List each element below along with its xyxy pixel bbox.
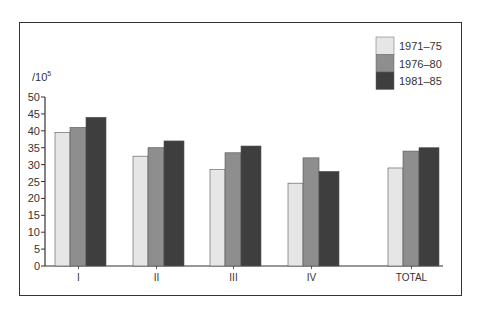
bar-i-1 [55,132,70,266]
y-tick-label: 5 [34,243,40,255]
legend-label-1: 1971–75 [399,40,442,52]
legend-swatch-3 [376,72,394,90]
bar-iv-3 [319,171,339,266]
bar-ii-3 [164,141,184,266]
bar-ii-2 [148,148,164,266]
legend-label-3: 1981–85 [399,75,442,87]
legend-label-2: 1976–80 [399,58,442,70]
bar-i-2 [70,127,86,266]
y-tick-label: 10 [28,226,40,238]
legend-swatch-1 [376,37,394,55]
legend-swatch-2 [376,55,394,73]
bar-iii-3 [241,146,261,266]
category-label: IV [307,272,317,283]
y-tick-label: 30 [28,159,40,171]
bar-total-2 [403,151,419,266]
y-tick-label: 50 [28,91,40,103]
bar-iv-2 [303,158,319,266]
category-label: III [229,272,237,283]
category-label: I [77,272,80,283]
bar-chart: 05101520253035404550IIIIIIIVTOTAL1971–75… [0,0,480,316]
bar-total-3 [419,148,439,266]
bar-i-3 [86,117,106,266]
bar-iii-1 [210,170,225,266]
y-tick-label: 40 [28,125,40,137]
category-label: II [154,272,160,283]
bar-iii-2 [225,153,241,266]
y-tick-label: 35 [28,142,40,154]
y-tick-label: 45 [28,108,40,120]
y-tick-label: 25 [28,176,40,188]
bar-total-1 [388,168,403,266]
y-tick-label: 15 [28,209,40,221]
category-label: TOTAL [396,272,428,283]
y-tick-label: 20 [28,192,40,204]
y-tick-label: 0 [34,260,40,272]
bar-iv-1 [288,183,303,266]
bar-ii-1 [133,156,148,266]
